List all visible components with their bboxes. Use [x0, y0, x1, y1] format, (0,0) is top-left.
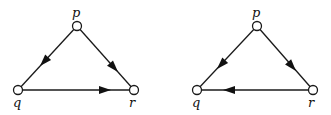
node-r [130, 86, 139, 95]
label-p: p [252, 5, 261, 20]
node-q [14, 86, 23, 95]
left-graph: p q r [13, 5, 139, 110]
arrowhead-q-r-icon [99, 86, 111, 94]
label-p: p [72, 5, 81, 20]
right-graph: p q r [192, 5, 318, 110]
directed-graphs-figure: p q r p q r [0, 0, 331, 115]
node-p [73, 22, 82, 31]
label-q: q [192, 95, 200, 110]
edge-p-to-q [197, 26, 257, 90]
arrowhead-r-q-icon [223, 86, 235, 94]
label-q: q [13, 95, 21, 110]
edge-p-to-r [77, 26, 134, 90]
node-q [193, 86, 202, 95]
edge-p-to-r [257, 26, 313, 90]
node-p [253, 22, 262, 31]
label-r: r [129, 95, 136, 110]
node-r [309, 86, 318, 95]
label-r: r [308, 95, 315, 110]
